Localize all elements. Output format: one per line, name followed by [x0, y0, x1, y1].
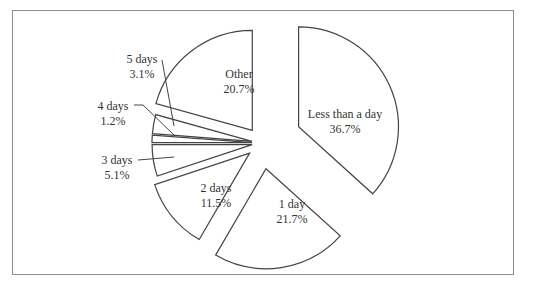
label-other: Other20.7%	[224, 67, 255, 96]
pie-slices	[152, 27, 398, 269]
label-4-days: 4 days1.2%	[98, 99, 129, 128]
label-2-days: 2 days11.5%	[201, 181, 232, 210]
label-5-days: 5 days3.1%	[127, 52, 158, 81]
label-3-days: 3 days5.1%	[102, 153, 133, 182]
pie-chart: Less than a day36.7% 1 day21.7% 2 days11…	[0, 0, 538, 284]
label-1-day: 1 day21.7%	[277, 197, 308, 226]
